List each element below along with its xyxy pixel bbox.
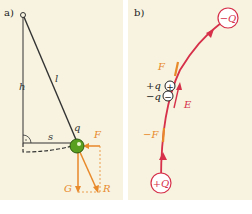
label-minus-q: −q <box>146 91 161 102</box>
label-G: G <box>64 183 72 194</box>
panel-a-label: a) <box>4 7 14 18</box>
panel-b-label: b) <box>134 7 144 18</box>
arrow-up-icon <box>206 29 214 38</box>
pendulum-diagram: a) h l s q F G R <box>0 0 123 200</box>
force-arrow-bottom <box>163 128 164 142</box>
label-plus-q: +q <box>146 80 161 91</box>
label-R: R <box>102 183 111 194</box>
label-F-top: F <box>157 61 166 72</box>
field-arrow <box>176 82 182 90</box>
svg-text:−: − <box>164 92 172 102</box>
label-s: s <box>48 131 53 142</box>
dipole-diagram: b) E F −F + − +q −q −Q +Q <box>128 0 252 200</box>
label-l: l <box>55 73 58 84</box>
label-pos-Q: +Q <box>153 178 170 189</box>
label-F: F <box>93 129 102 140</box>
label-E: E <box>183 99 192 110</box>
label-neg-F: −F <box>143 129 159 140</box>
arrow-up-icon <box>159 152 167 160</box>
pivot-icon <box>21 13 26 18</box>
pendulum-string <box>24 17 77 142</box>
svg-text:+: + <box>166 82 174 92</box>
label-q: q <box>74 122 80 133</box>
right-angle-icon <box>23 135 31 143</box>
panel-b-dipole: b) E F −F + − +q −q −Q +Q <box>128 0 252 200</box>
label-h: h <box>19 81 25 92</box>
panel-a-pendulum: a) h l s q F G R <box>0 0 123 200</box>
label-neg-Q: −Q <box>220 13 237 24</box>
charged-ball <box>70 139 84 153</box>
swing-arc <box>23 143 72 152</box>
